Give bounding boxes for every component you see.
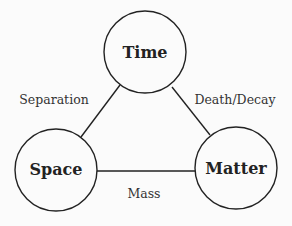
edge-label-mass: Mass bbox=[127, 186, 160, 201]
node-space-label: Space bbox=[29, 160, 82, 179]
node-time: Time bbox=[104, 11, 186, 93]
node-matter-label: Matter bbox=[205, 159, 267, 178]
edge-label-separation: Separation bbox=[19, 92, 88, 107]
edge-label-death-decay: Death/Decay bbox=[194, 92, 276, 107]
node-space: Space bbox=[15, 129, 97, 211]
node-time-label: Time bbox=[122, 43, 167, 62]
node-matter: Matter bbox=[195, 127, 277, 209]
triangle-diagram: Time Space Matter Separation Death/Decay… bbox=[0, 0, 292, 226]
diagram-canvas: Time Space Matter Separation Death/Decay… bbox=[0, 0, 292, 226]
